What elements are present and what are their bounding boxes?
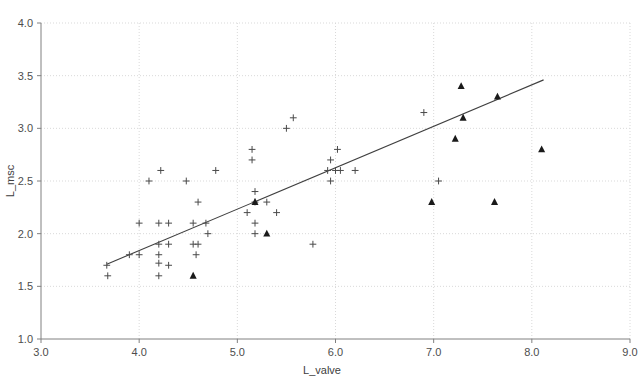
plus-marker bbox=[244, 209, 251, 216]
plus-marker bbox=[193, 251, 200, 258]
plus-marker bbox=[290, 114, 297, 121]
series-triangle bbox=[190, 82, 546, 278]
plus-marker bbox=[183, 178, 190, 185]
triangle-marker bbox=[458, 82, 465, 89]
plus-marker bbox=[155, 220, 162, 227]
plus-marker bbox=[334, 146, 341, 153]
triangle-marker bbox=[538, 145, 545, 152]
x-tick-label: 9.0 bbox=[622, 346, 637, 358]
plus-marker bbox=[204, 230, 211, 237]
plus-marker bbox=[190, 220, 197, 227]
y-tick-label: 2.5 bbox=[18, 175, 33, 187]
triangle-marker bbox=[494, 93, 501, 100]
x-tick-label: 5.0 bbox=[230, 346, 245, 358]
gridlines-group bbox=[41, 23, 630, 339]
plus-marker bbox=[126, 251, 133, 258]
plus-marker bbox=[273, 209, 280, 216]
plus-marker bbox=[435, 178, 442, 185]
plus-marker bbox=[352, 167, 359, 174]
plus-marker bbox=[252, 220, 259, 227]
plus-marker bbox=[165, 262, 172, 269]
x-tick-label: 8.0 bbox=[524, 346, 539, 358]
triangle-marker bbox=[452, 135, 459, 142]
plus-marker bbox=[263, 199, 270, 206]
plot-canvas: 3.04.05.06.07.08.09.01.01.52.02.53.03.54… bbox=[0, 0, 643, 380]
plus-marker bbox=[324, 167, 331, 174]
y-axis-title: L_msc bbox=[4, 164, 16, 197]
plus-marker bbox=[337, 167, 344, 174]
plus-marker bbox=[195, 241, 202, 248]
plus-marker bbox=[249, 146, 256, 153]
regression-trendline bbox=[107, 80, 544, 264]
y-tick-label: 3.0 bbox=[18, 122, 33, 134]
x-tick-label: 3.0 bbox=[33, 346, 48, 358]
plus-marker bbox=[283, 125, 290, 132]
x-tick-label: 7.0 bbox=[426, 346, 441, 358]
plus-marker bbox=[249, 157, 256, 164]
triangle-marker bbox=[491, 198, 498, 205]
tick-labels-group: 3.04.05.06.07.08.09.01.01.52.02.53.03.54… bbox=[18, 17, 638, 358]
y-tick-label: 4.0 bbox=[18, 17, 33, 29]
plus-marker bbox=[203, 220, 210, 227]
y-tick-label: 3.5 bbox=[18, 70, 33, 82]
plus-marker bbox=[420, 109, 427, 116]
plus-marker bbox=[212, 167, 219, 174]
plus-marker bbox=[165, 241, 172, 248]
plus-marker bbox=[136, 220, 143, 227]
plus-marker bbox=[327, 178, 334, 185]
triangle-marker bbox=[428, 198, 435, 205]
plus-marker bbox=[157, 167, 164, 174]
x-axis-title: L_valve bbox=[303, 364, 341, 376]
tick-marks-group bbox=[37, 23, 630, 343]
plus-marker bbox=[165, 220, 172, 227]
y-tick-label: 1.0 bbox=[18, 333, 33, 345]
plus-marker bbox=[155, 251, 162, 258]
triangle-marker bbox=[190, 272, 197, 279]
y-tick-label: 2.0 bbox=[18, 228, 33, 240]
trendline-group bbox=[107, 80, 544, 264]
y-tick-label: 1.5 bbox=[18, 280, 33, 292]
plus-marker bbox=[104, 272, 111, 279]
data-points-group bbox=[103, 82, 545, 279]
plus-marker bbox=[252, 230, 259, 237]
x-tick-label: 4.0 bbox=[132, 346, 147, 358]
x-tick-label: 6.0 bbox=[328, 346, 343, 358]
plus-marker bbox=[136, 251, 143, 258]
plus-marker bbox=[252, 188, 259, 195]
plus-marker bbox=[155, 260, 162, 267]
triangle-marker bbox=[251, 198, 258, 205]
plus-marker bbox=[327, 157, 334, 164]
plus-marker bbox=[195, 199, 202, 206]
plus-marker bbox=[155, 272, 162, 279]
triangle-marker bbox=[263, 230, 270, 237]
plus-marker bbox=[310, 241, 317, 248]
plus-marker bbox=[146, 178, 153, 185]
scatter-plot-figure: 3.04.05.06.07.08.09.01.01.52.02.53.03.54… bbox=[0, 0, 643, 380]
